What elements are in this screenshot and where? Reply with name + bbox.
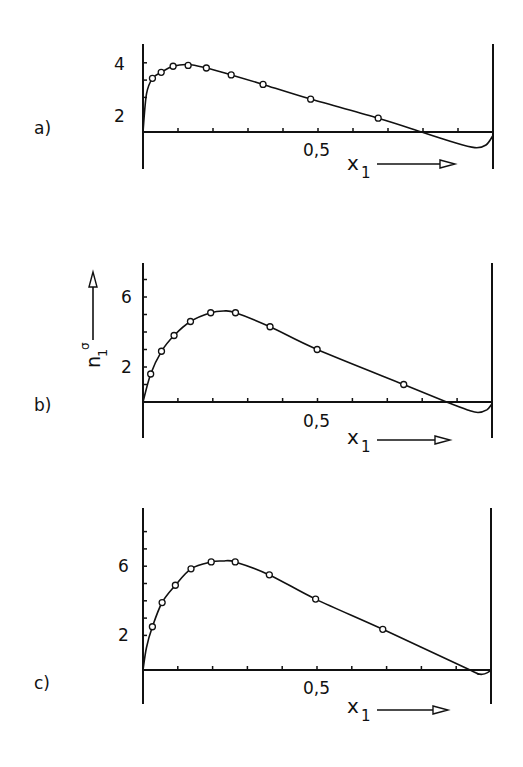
b-xtick-half: 0,5: [303, 411, 330, 431]
a-xlabel-sub: 1: [361, 164, 371, 182]
data-point-marker: [313, 596, 319, 602]
c-xtick-half: 0,5: [303, 678, 330, 698]
fitted-curve: [143, 561, 491, 675]
data-point-marker: [260, 81, 266, 87]
data-point-marker: [185, 62, 191, 68]
a-xlabel: x 1: [347, 151, 455, 182]
data-point-marker: [208, 310, 214, 316]
data-point-marker: [172, 582, 178, 588]
fitted-curve: [143, 311, 492, 413]
b-x-arrow-icon: [435, 436, 450, 444]
a-ytick-4: 4: [114, 54, 125, 74]
data-point-marker: [170, 63, 176, 69]
data-point-marker: [232, 310, 238, 316]
fitted-curve: [143, 64, 493, 147]
b-xlabel: x 1: [347, 425, 450, 456]
data-point-marker: [401, 382, 407, 388]
data-point-marker: [158, 348, 164, 354]
c-xlabel: x 1: [347, 694, 448, 725]
data-point-marker: [188, 566, 194, 572]
data-point-marker: [158, 69, 164, 75]
data-point-marker: [208, 559, 214, 565]
data-point-marker: [228, 72, 234, 78]
figure: a) b) c) 4 2 6 2 6 2 0,5 0,5 0,5 x 1 x 1…: [0, 0, 523, 767]
data-point-marker: [267, 324, 273, 330]
data-point-marker: [375, 115, 381, 121]
b-ytick-2: 2: [121, 357, 132, 377]
a-xtick-half: 0,5: [303, 140, 330, 160]
data-point-marker: [380, 626, 386, 632]
data-point-marker: [266, 572, 272, 578]
c-xlabel-sub: 1: [361, 707, 371, 725]
panel-label-c: c): [34, 673, 50, 693]
y-axis-label: n 1 σ: [78, 272, 110, 368]
data-point-marker: [149, 75, 155, 81]
chart-panel-c: [143, 508, 491, 704]
c-ytick-6: 6: [118, 556, 129, 576]
c-x-arrow-icon: [433, 706, 448, 714]
panel-label-a: a): [34, 118, 51, 138]
ylabel-sub: 1: [95, 349, 110, 357]
a-ytick-2: 2: [114, 106, 125, 126]
b-ytick-6: 6: [121, 287, 132, 307]
b-xlabel-sub: 1: [361, 438, 371, 456]
data-point-marker: [308, 96, 314, 102]
a-x-arrow-icon: [440, 160, 455, 168]
panel-label-b: b): [34, 395, 51, 415]
data-point-marker: [187, 319, 193, 325]
data-point-marker: [203, 65, 209, 71]
data-point-marker: [314, 347, 320, 353]
data-point-marker: [159, 600, 165, 606]
c-ytick-2: 2: [118, 625, 129, 645]
b-xlabel-x: x: [347, 425, 359, 449]
y-arrow-icon: [89, 272, 97, 287]
data-point-marker: [171, 333, 177, 339]
data-point-marker: [148, 371, 154, 377]
data-point-marker: [149, 624, 155, 630]
ylabel-sup: σ: [78, 342, 92, 350]
a-xlabel-x: x: [347, 151, 359, 175]
data-point-marker: [232, 559, 238, 565]
c-xlabel-x: x: [347, 694, 359, 718]
